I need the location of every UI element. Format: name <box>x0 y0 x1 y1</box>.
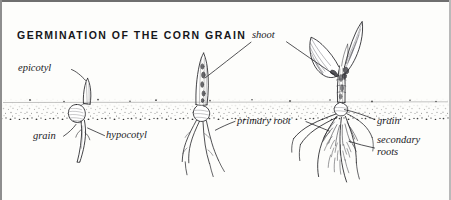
label-primary-root: primary root <box>237 115 291 127</box>
label-secondary-roots-line1: secondary <box>377 134 420 146</box>
label-epicotyl: epicotyl <box>18 62 51 74</box>
stage-1-sprouting-grain <box>68 78 90 162</box>
label-grain-left: grain <box>33 130 56 142</box>
leader-primary-root-left <box>215 121 235 130</box>
leader-shoot-left <box>205 42 251 78</box>
germination-diagram-figure: GERMINATION OF THE CORN GRAIN epicotyl g… <box>0 0 451 200</box>
leader-epicotyl <box>72 70 86 81</box>
label-shoot: shoot <box>252 29 275 41</box>
label-secondary-roots-line2: roots <box>377 146 398 158</box>
leader-grain-left <box>64 124 77 136</box>
label-hypocotyl: hypocotyl <box>106 129 147 141</box>
page-title: GERMINATION OF THE CORN GRAIN <box>17 29 246 41</box>
label-grain-right: grain <box>377 115 400 127</box>
leader-hypocotyl <box>88 128 105 136</box>
